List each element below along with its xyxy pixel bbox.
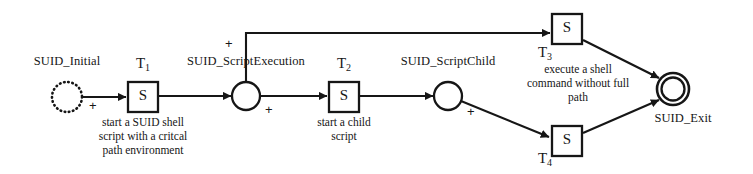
transition-t4-name: T xyxy=(538,150,547,166)
transition-caption-t3-line-1: execute a shell xyxy=(498,62,658,76)
transition-caption-t1-line-1: start a SUID shell xyxy=(68,115,218,129)
transition-t4-subscript: 4 xyxy=(547,157,552,168)
transition-caption-t1-line-2: script with a critcal xyxy=(68,129,218,143)
place-label-suid-scriptchild: SUID_ScriptChild xyxy=(401,55,496,69)
transition-caption-t3-line-2: command without full xyxy=(498,76,658,90)
transition-label-t2: T2 xyxy=(337,55,351,71)
transition-caption-t2: start a child script xyxy=(289,115,399,143)
transition-t2-name: T xyxy=(337,55,346,71)
transition-t2-inner-label: S xyxy=(340,87,348,103)
transition-label-t4: T4 xyxy=(538,150,552,166)
transition-caption-t2-line-2: script xyxy=(289,129,399,143)
transition-t3-subscript: 3 xyxy=(547,51,552,62)
transition-label-t1: T1 xyxy=(136,55,150,71)
transition-t1-subscript: 1 xyxy=(145,62,150,73)
transition-t2-subscript: 2 xyxy=(346,62,351,73)
arc-annotation-scriptexecution-to-t2: + xyxy=(265,103,273,117)
transition-t1-name: T xyxy=(136,55,145,71)
transition-t1-inner-label: S xyxy=(139,87,147,103)
petri-net-figure: SUID_Initial SUID_ScriptExecution SUID_S… xyxy=(0,0,753,174)
transition-caption-t3: execute a shell command without full pat… xyxy=(498,62,658,104)
transition-caption-t1: start a SUID shell script with a critcal… xyxy=(68,115,218,157)
place-label-suid-exit: SUID_Exit xyxy=(654,112,711,126)
place-suid-exit xyxy=(657,73,689,105)
transition-caption-t1-line-3: path environment xyxy=(68,143,218,157)
place-suid-scriptchild xyxy=(434,82,462,110)
transition-caption-t2-line-1: start a child xyxy=(289,115,399,129)
arc-annotation-scriptexecution-to-t3: + xyxy=(225,37,233,51)
arc-t4-to-exit xyxy=(583,100,659,133)
transition-label-t3: T3 xyxy=(538,44,552,60)
arc-annotation-initial-to-t1: + xyxy=(89,99,97,113)
place-label-suid-scriptexecution: SUID_ScriptExecution xyxy=(187,55,305,69)
place-suid-initial xyxy=(52,82,82,112)
transition-t3-name: T xyxy=(538,44,547,60)
transition-t3-inner-label: S xyxy=(563,19,571,35)
place-suid-scriptexecution xyxy=(232,82,260,110)
place-label-suid-initial: SUID_Initial xyxy=(34,55,100,69)
arc-annotation-scriptchild-to-t4: + xyxy=(467,105,475,119)
transition-t4-inner-label: S xyxy=(563,131,571,147)
transition-caption-t3-line-3: path xyxy=(498,90,658,104)
